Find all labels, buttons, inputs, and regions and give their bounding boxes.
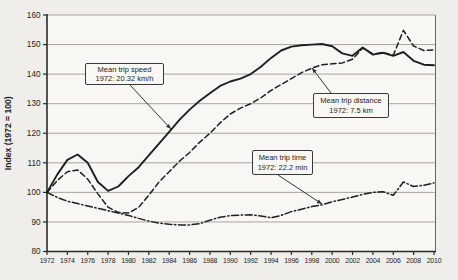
x-tick-label-1994: 1994: [264, 257, 279, 264]
chart-figure: 8090100110120130140150160197219741976197…: [0, 0, 458, 280]
annotation-value: 1972: 22.2 min: [258, 163, 308, 173]
y-tick-label-80: 80: [31, 247, 41, 256]
y-axis-title: Index (1972 = 100): [3, 96, 13, 170]
y-tick-label-140: 140: [27, 70, 41, 79]
x-tick-label-1976: 1976: [80, 257, 95, 264]
annotation-value: 1972: 20.32 km/h: [96, 74, 154, 84]
x-tick-label-2008: 2008: [406, 257, 421, 264]
x-tick-label-1984: 1984: [162, 257, 177, 264]
x-tick-label-1996: 1996: [284, 257, 299, 264]
x-tick-label-2004: 2004: [366, 257, 381, 264]
x-tick-label-2010: 2010: [427, 257, 442, 264]
x-tick-label-1990: 1990: [223, 257, 238, 264]
y-tick-label-110: 110: [27, 159, 40, 168]
y-tick-label-160: 160: [27, 11, 41, 20]
x-tick-label-2002: 2002: [345, 257, 360, 264]
x-tick-label-1988: 1988: [203, 257, 218, 264]
y-tick-label-150: 150: [27, 40, 41, 49]
annotation-value: 1972: 7.5 km: [329, 106, 372, 116]
x-tick-label-1974: 1974: [60, 257, 75, 264]
y-tick-label-120: 120: [27, 129, 41, 138]
annotation-title: Mean trip distance: [320, 96, 381, 106]
annotation-mean-trip-speed: Mean trip speed 1972: 20.32 km/h: [85, 63, 164, 85]
y-tick-label-90: 90: [31, 218, 41, 227]
x-tick-label-1982: 1982: [142, 257, 157, 264]
y-tick-label-100: 100: [27, 188, 41, 197]
annotation-title: Mean trip time: [259, 153, 307, 163]
annotation-mean-trip-time: Mean trip time 1972: 22.2 min: [252, 150, 313, 175]
line-chart-canvas: 8090100110120130140150160197219741976197…: [0, 0, 458, 280]
x-tick-label-1992: 1992: [243, 257, 258, 264]
annotation-title: Mean trip speed: [98, 65, 152, 75]
y-tick-label-130: 130: [27, 99, 41, 108]
x-tick-label-1978: 1978: [101, 257, 116, 264]
x-tick-label-1986: 1986: [182, 257, 197, 264]
x-tick-label-2000: 2000: [325, 257, 340, 264]
annotation-mean-trip-distance: Mean trip distance 1972: 7.5 km: [313, 93, 389, 118]
x-tick-label-2006: 2006: [386, 257, 401, 264]
x-tick-label-1998: 1998: [305, 257, 320, 264]
x-tick-label-1980: 1980: [121, 257, 136, 264]
x-tick-label-1972: 1972: [40, 257, 55, 264]
